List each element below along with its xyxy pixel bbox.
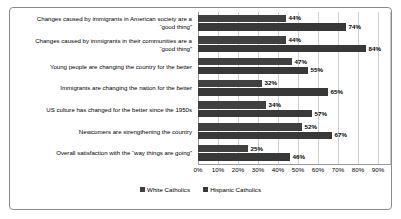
legend-item-white-catholics[interactable]: White Catholics bbox=[140, 186, 190, 193]
chart-row: Immigrants are changing the nation for t… bbox=[0, 77, 401, 99]
category-label: Immigrants are changing the nation for t… bbox=[14, 77, 192, 99]
legend-label: White Catholics bbox=[147, 186, 190, 193]
bar-hispanic-catholics[interactable] bbox=[198, 23, 346, 30]
bar-group: 44%84% bbox=[198, 34, 398, 56]
bar-value-label: 34% bbox=[269, 101, 281, 108]
bar-value-label: 84% bbox=[369, 45, 381, 52]
bar-value-label: 44% bbox=[289, 36, 301, 43]
bar-white-catholics[interactable] bbox=[198, 101, 266, 108]
bar-group: 32%65% bbox=[198, 77, 398, 99]
chart-row: Young people are changing the country fo… bbox=[0, 55, 401, 77]
bar-value-label: 32% bbox=[265, 79, 277, 86]
bar-white-catholics[interactable] bbox=[198, 36, 286, 43]
bar-value-label: 25% bbox=[251, 145, 263, 152]
category-label: US culture has changed for the better si… bbox=[14, 99, 192, 121]
chart-row: Overall satisfaction with the “way thing… bbox=[0, 142, 401, 164]
chart-figure: Changes caused by immigrants in American… bbox=[0, 0, 401, 219]
chart-rows: Changes caused by immigrants in American… bbox=[0, 12, 401, 164]
chart-row: Changes caused by immigrants in American… bbox=[0, 12, 401, 34]
bar-white-catholics[interactable] bbox=[198, 58, 292, 65]
x-axis-baseline bbox=[198, 164, 391, 165]
legend-label: Hispanic Catholics bbox=[210, 186, 261, 193]
category-label: Changes caused by immigrants in American… bbox=[14, 12, 192, 34]
bar-hispanic-catholics[interactable] bbox=[198, 132, 332, 139]
chart-row: Newcomers are strengthening the country5… bbox=[0, 121, 401, 143]
bar-value-label: 67% bbox=[335, 131, 347, 138]
bar-group: 44%74% bbox=[198, 12, 398, 34]
bar-white-catholics[interactable] bbox=[198, 123, 302, 130]
bar-value-label: 47% bbox=[295, 58, 307, 65]
bar-group: 47%55% bbox=[198, 55, 398, 77]
bar-group: 52%67% bbox=[198, 121, 398, 143]
category-label: Overall satisfaction with the “way thing… bbox=[14, 142, 192, 164]
bar-value-label: 74% bbox=[349, 23, 361, 30]
chart-row: Changes caused by immigrants in their co… bbox=[0, 34, 401, 56]
bar-value-label: 65% bbox=[331, 88, 343, 95]
bar-hispanic-catholics[interactable] bbox=[198, 67, 308, 74]
x-tick-label: 90% bbox=[363, 166, 393, 173]
chart-legend: White CatholicsHispanic Catholics bbox=[0, 186, 401, 193]
bar-hispanic-catholics[interactable] bbox=[198, 153, 290, 160]
bar-value-label: 44% bbox=[289, 14, 301, 21]
bar-white-catholics[interactable] bbox=[198, 15, 286, 22]
category-label: Young people are changing the country fo… bbox=[14, 55, 192, 77]
bar-value-label: 57% bbox=[315, 110, 327, 117]
bar-value-label: 46% bbox=[293, 153, 305, 160]
bar-group: 25%46% bbox=[198, 142, 398, 164]
category-label: Changes caused by immigrants in their co… bbox=[14, 34, 192, 56]
bar-hispanic-catholics[interactable] bbox=[198, 110, 312, 117]
bar-hispanic-catholics[interactable] bbox=[198, 45, 366, 52]
bar-white-catholics[interactable] bbox=[198, 80, 262, 87]
legend-item-hispanic-catholics[interactable]: Hispanic Catholics bbox=[203, 186, 261, 193]
x-axis-tick-labels: 0%10%20%30%40%50%60%70%80%90% bbox=[0, 166, 401, 178]
legend-swatch-icon bbox=[203, 187, 208, 192]
bar-group: 34%57% bbox=[198, 99, 398, 121]
category-label: Newcomers are strengthening the country bbox=[14, 121, 192, 143]
bar-value-label: 55% bbox=[311, 66, 323, 73]
legend-swatch-icon bbox=[140, 187, 145, 192]
chart-row: US culture has changed for the better si… bbox=[0, 99, 401, 121]
bar-white-catholics[interactable] bbox=[198, 145, 248, 152]
bar-value-label: 52% bbox=[305, 123, 317, 130]
bar-hispanic-catholics[interactable] bbox=[198, 88, 328, 95]
